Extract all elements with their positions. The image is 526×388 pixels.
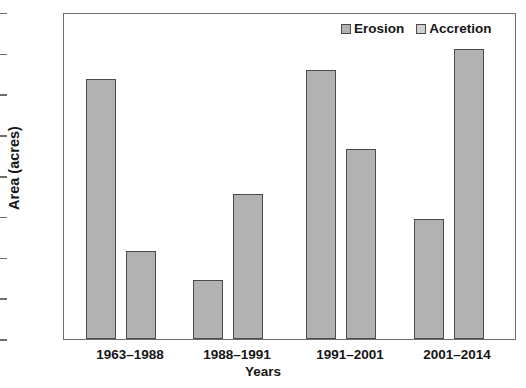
bar-accretion-1991-2001[interactable] <box>346 149 376 339</box>
y-tick-mark <box>0 339 7 341</box>
figure-bar-chart: 0 100 200 300 400 500 600 700 <box>0 0 526 388</box>
erosion-swatch-icon <box>341 24 351 34</box>
bar-erosion-2001-2014[interactable] <box>414 219 444 339</box>
x-axis-title: Years <box>0 364 526 379</box>
legend-label-erosion: Erosion <box>354 21 404 36</box>
x-axis-label-2001-2014: 2001–2014 <box>405 347 509 362</box>
legend: Erosion Accretion <box>341 21 492 36</box>
y-tick-mark <box>0 13 7 15</box>
legend-label-accretion: Accretion <box>429 21 491 36</box>
legend-entry-accretion[interactable]: Accretion <box>416 21 491 36</box>
bar-accretion-1988-1991[interactable] <box>233 194 263 339</box>
bars-layer <box>64 14 515 339</box>
bar-erosion-1963-1988[interactable] <box>86 79 116 339</box>
accretion-swatch-icon <box>416 24 426 34</box>
y-axis-title: Area (acres) <box>6 68 22 268</box>
bar-accretion-1963-1988[interactable] <box>126 251 156 339</box>
bar-erosion-1991-2001[interactable] <box>306 70 336 339</box>
x-axis-label-1963-1988: 1963–1988 <box>78 347 182 362</box>
y-tick-mark <box>0 54 7 56</box>
x-axis-label-1991-2001: 1991–2001 <box>298 347 402 362</box>
legend-entry-erosion[interactable]: Erosion <box>341 21 404 36</box>
x-axis-label-1988-1991: 1988–1991 <box>185 347 289 362</box>
bar-accretion-2001-2014[interactable] <box>454 49 484 339</box>
plot-area: Erosion Accretion <box>63 13 516 340</box>
bar-erosion-1988-1991[interactable] <box>193 280 223 339</box>
y-tick-mark <box>0 298 7 300</box>
